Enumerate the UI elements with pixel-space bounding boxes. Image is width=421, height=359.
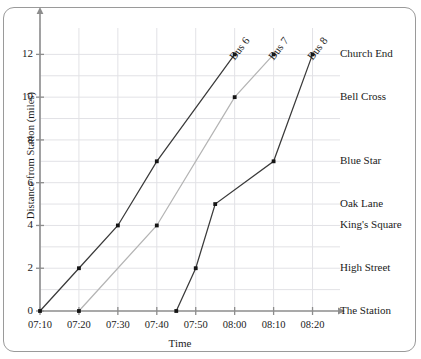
x-tick-label: 08:10 [252,319,296,330]
y-tick-label: 2 [7,262,33,273]
stop-label: Blue Star [340,155,381,166]
travel-graph-figure: Distance from Station (miles) Time 02468… [0,0,421,359]
tick-marks [36,54,313,315]
y-axis-arrowhead [37,7,44,14]
y-tick-label: 10 [7,91,33,102]
stop-label: Oak Lane [340,198,383,209]
y-tick-label: 12 [7,48,33,59]
x-tick-label: 07:30 [96,319,140,330]
stop-label: High Street [340,262,390,273]
data-point-marker [77,266,81,270]
data-point-marker [233,95,237,99]
stop-label: King's Square [340,219,402,230]
y-tick-label: 6 [7,177,33,188]
x-tick-label: 08:20 [291,319,335,330]
x-tick-label: 08:00 [213,319,257,330]
gridlines [40,28,340,311]
data-point-marker [194,266,198,270]
data-point-marker [77,309,81,313]
data-point-marker [174,309,178,313]
stop-label: Church End [340,48,393,59]
stop-label: Bell Cross [340,91,386,102]
x-tick-label: 07:20 [57,319,101,330]
data-point-marker [38,309,42,313]
y-tick-label: 4 [7,219,33,230]
x-axis-title: Time [40,337,320,349]
y-tick-label: 8 [7,134,33,145]
y-tick-label: 0 [7,305,33,316]
data-point-marker [272,159,276,163]
data-point-marker [213,202,217,206]
data-point-marker [116,224,120,228]
data-point-marker [155,159,159,163]
data-point-marker [155,224,159,228]
x-tick-label: 07:40 [135,319,179,330]
x-tick-label: 07:10 [18,319,62,330]
stop-label: The Station [340,305,391,316]
x-tick-label: 07:50 [174,319,218,330]
